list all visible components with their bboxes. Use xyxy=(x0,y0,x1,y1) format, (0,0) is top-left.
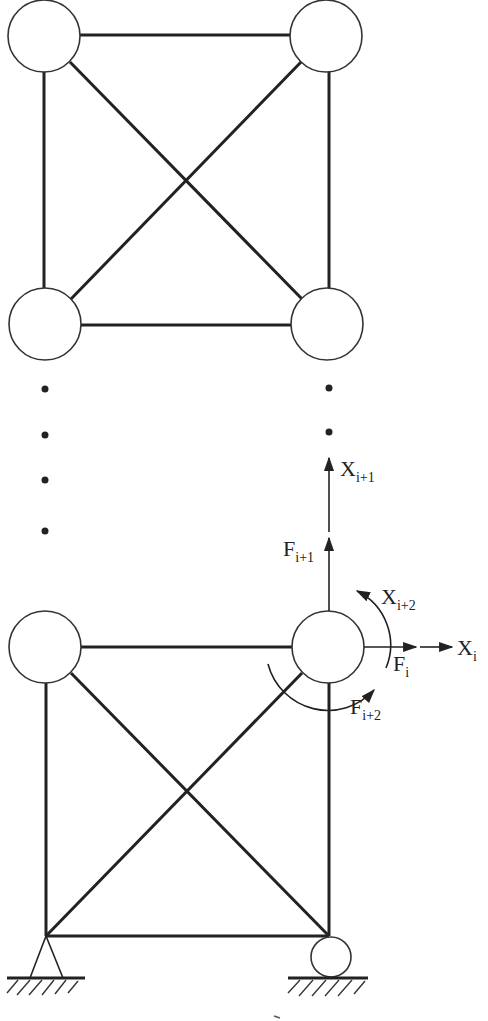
node-upper-top-left xyxy=(8,0,80,72)
roller-wheel xyxy=(311,937,351,977)
lower-panel xyxy=(9,611,364,936)
nodal-vectors xyxy=(268,458,452,710)
lower-diagonal-a xyxy=(71,673,329,936)
upper-panel xyxy=(8,0,363,360)
dot xyxy=(42,386,49,393)
label-x-i: Xi xyxy=(457,635,477,664)
lower-diagonal-b xyxy=(46,673,302,936)
pin-hatching xyxy=(7,980,78,995)
pin-triangle xyxy=(30,936,63,978)
roller-support xyxy=(288,937,368,996)
stray-mark xyxy=(274,1016,280,1018)
node-upper-bottom-left xyxy=(9,288,81,360)
continuation-dots xyxy=(42,385,333,535)
dot xyxy=(42,528,49,535)
label-f-i1: Fi+1 xyxy=(283,536,314,565)
dot xyxy=(326,429,333,436)
dot xyxy=(326,385,333,392)
node-upper-top-right xyxy=(290,0,362,72)
label-x-i2: Xi+2 xyxy=(381,584,416,613)
dot xyxy=(42,432,49,439)
label-x-i1: Xi+1 xyxy=(340,456,375,485)
truss-diagram: Xi+1 Fi+1 Xi+2 Xi Fi Fi+2 xyxy=(0,0,488,1021)
pin-support xyxy=(7,936,85,995)
roller-hatching xyxy=(288,980,365,996)
node-lower-top-right xyxy=(292,611,364,683)
dot xyxy=(42,477,49,484)
node-upper-bottom-right xyxy=(291,288,363,360)
node-lower-top-left xyxy=(9,611,81,683)
label-f-i: Fi xyxy=(393,651,409,680)
